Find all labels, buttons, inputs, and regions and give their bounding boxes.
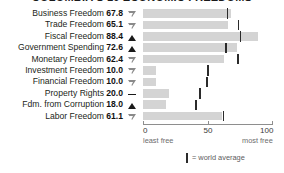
axis-tick-mark: [208, 121, 209, 125]
trend-down-icon: [126, 65, 137, 76]
trend-up-icon: [126, 99, 137, 110]
row-value: 67.8: [99, 8, 123, 19]
row-label: Government Spending: [0, 42, 104, 53]
axis-tick-label: 50: [204, 126, 213, 135]
row-label: Fiscal Freedom: [0, 31, 104, 42]
axis-tick-mark: [143, 121, 144, 125]
row-value: 18.0: [99, 99, 123, 110]
row-label: Trade Freedom: [0, 19, 104, 30]
triangle-down-icon: [128, 80, 136, 86]
bar: [143, 78, 156, 87]
axis-sublabel: most free: [242, 136, 273, 145]
row-label: Investment Freedom: [0, 65, 104, 76]
world-average-tick: [227, 8, 229, 19]
bar: [143, 66, 156, 75]
row-value: 10.0: [99, 76, 123, 87]
triangle-down-icon: [128, 114, 136, 120]
world-average-tick: [225, 43, 227, 54]
triangle-down-icon: [128, 69, 136, 75]
world-average-tick: [206, 77, 208, 88]
row-label: Property Rights: [0, 88, 104, 99]
world-average-tick-icon: [186, 153, 188, 163]
world-average-tick: [223, 111, 225, 122]
economic-freedoms-chart: COLOMBIA'S 10 ECONOMIC FREEDOMS Business…: [0, 0, 284, 173]
world-average-tick: [207, 65, 209, 76]
bar: [143, 43, 237, 52]
trend-down-icon: [126, 8, 137, 19]
row-label: Monetary Freedom: [0, 54, 104, 65]
row-value: 10.0: [99, 65, 123, 76]
row-value: 20.0: [99, 88, 123, 99]
world-average-tick: [199, 88, 201, 99]
bar: [143, 100, 166, 109]
bar: [143, 9, 231, 18]
bar: [143, 112, 222, 121]
trend-down-icon: [126, 54, 137, 65]
legend-label: = world average: [192, 153, 245, 163]
axis-sublabel: least free: [143, 136, 173, 145]
row-value: 65.1: [99, 19, 123, 30]
row-label: Financial Freedom: [0, 76, 104, 87]
trend-down-icon: [126, 111, 137, 122]
axis-tick-label: 100: [260, 126, 273, 135]
triangle-up-icon: [128, 46, 136, 52]
triangle-down-icon: [128, 57, 136, 63]
axis-tick-mark: [272, 121, 273, 125]
axis-tick-label: 0: [143, 126, 147, 135]
trend-up-icon: [126, 42, 137, 53]
triangle-up-icon: [128, 35, 136, 41]
world-average-tick: [195, 100, 197, 111]
plot-area: [143, 8, 273, 122]
bar: [143, 21, 228, 30]
dash-icon: [128, 94, 136, 96]
triangle-up-icon: [128, 103, 136, 109]
chart-title: COLOMBIA'S 10 ECONOMIC FREEDOMS: [0, 0, 284, 2]
trend-up-icon: [126, 31, 137, 42]
row-label: Business Freedom: [0, 8, 104, 19]
triangle-down-icon: [128, 23, 136, 29]
row-value: 72.6: [99, 42, 123, 53]
row-label: Fdm. from Corruption: [0, 99, 104, 110]
row-value: 88.4: [99, 31, 123, 42]
bar: [143, 89, 169, 98]
trend-down-icon: [126, 76, 137, 87]
world-average-tick: [238, 20, 240, 31]
world-average-tick: [240, 31, 242, 42]
world-average-tick: [237, 54, 239, 65]
trend-flat-icon: [126, 88, 137, 99]
bar: [143, 55, 224, 64]
triangle-down-icon: [128, 12, 136, 18]
row-label: Labor Freedom: [0, 111, 104, 122]
trend-down-icon: [126, 19, 137, 30]
row-value: 61.1: [99, 111, 123, 122]
row-value: 62.4: [99, 54, 123, 65]
